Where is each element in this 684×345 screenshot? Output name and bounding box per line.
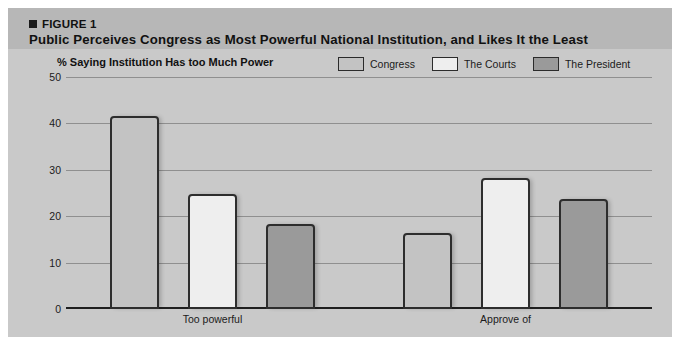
bar-congress-too-powerful bbox=[110, 116, 159, 309]
y-axis-tick-label: 40 bbox=[49, 117, 61, 129]
square-bullet-icon bbox=[29, 20, 37, 28]
figure-number-label: FIGURE 1 bbox=[42, 18, 97, 30]
plot-grid bbox=[66, 77, 652, 309]
gridline bbox=[66, 77, 652, 78]
chart-panel: % Saying Institution Has too Much Power … bbox=[8, 49, 672, 337]
legend-label: Congress bbox=[370, 58, 415, 70]
legend-item-the-courts[interactable]: The Courts bbox=[432, 57, 516, 71]
y-axis-tick-label: 10 bbox=[49, 257, 61, 269]
x-axis-group-label: Too powerful bbox=[183, 313, 243, 325]
legend-swatch-icon bbox=[338, 57, 364, 71]
y-axis-tick-label: 20 bbox=[49, 210, 61, 222]
y-axis-tick-label: 30 bbox=[49, 164, 61, 176]
legend-swatch-icon bbox=[432, 57, 458, 71]
legend-item-congress[interactable]: Congress bbox=[338, 57, 415, 71]
plot-area: 50403020100 Too powerfulApprove of bbox=[8, 77, 672, 337]
bar-the-president-too-powerful bbox=[266, 224, 315, 309]
y-axis: 50403020100 bbox=[28, 77, 61, 309]
figure-title-band: FIGURE 1 Public Perceives Congress as Mo… bbox=[8, 8, 672, 49]
x-axis: Too powerfulApprove of bbox=[66, 311, 652, 331]
legend-swatch-icon bbox=[533, 57, 559, 71]
legend-label: The President bbox=[565, 58, 630, 70]
y-axis-tick-label: 50 bbox=[49, 71, 61, 83]
chart-legend: CongressThe CourtsThe President bbox=[338, 57, 630, 71]
legend-label: The Courts bbox=[464, 58, 516, 70]
chart-subtitle: % Saying Institution Has too Much Power bbox=[57, 56, 273, 68]
y-axis-tick-label: 0 bbox=[55, 303, 61, 315]
bar-the-courts-approve-of bbox=[481, 178, 530, 309]
x-axis-group-label: Approve of bbox=[480, 313, 531, 325]
figure-container: FIGURE 1 Public Perceives Congress as Mo… bbox=[0, 0, 684, 345]
bar-congress-approve-of bbox=[403, 233, 452, 309]
figure-title: Public Perceives Congress as Most Powerf… bbox=[29, 32, 588, 47]
bar-the-courts-too-powerful bbox=[188, 194, 237, 309]
figure-label-row: FIGURE 1 bbox=[29, 18, 97, 30]
legend-item-the-president[interactable]: The President bbox=[533, 57, 630, 71]
chart-header: % Saying Institution Has too Much Power … bbox=[8, 49, 672, 77]
bar-the-president-approve-of bbox=[559, 199, 608, 309]
